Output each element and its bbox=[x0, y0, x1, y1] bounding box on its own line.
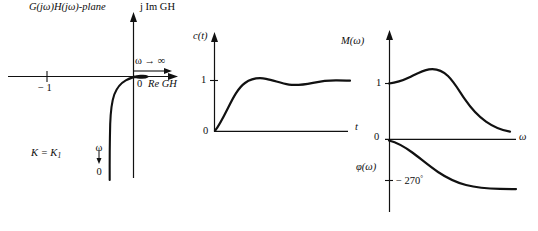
time-axis-label: t bbox=[355, 122, 358, 133]
step-origin-label: 0 bbox=[203, 126, 208, 137]
nyquist-critical-point-label: − 1 bbox=[38, 83, 52, 94]
omega-zero-label: 0 bbox=[92, 166, 106, 177]
omega-axis-label: ω bbox=[519, 132, 526, 143]
magnitude-unity-label: 1 bbox=[376, 78, 381, 89]
control-systems-figure: G(jω)H(jω)-plane j Im GH 0 Re GH ω → ∞ −… bbox=[0, 0, 538, 231]
phase-270-value: − 270 bbox=[396, 175, 420, 186]
step-response-axis-label: c(t) bbox=[193, 31, 208, 42]
phase-270-label: − 270° bbox=[396, 175, 423, 187]
gain-label-k: K bbox=[31, 147, 38, 158]
gain-label: K = K1 bbox=[31, 148, 61, 160]
phase-axes bbox=[385, 139, 393, 212]
nyquist-locus-curve bbox=[110, 76, 148, 180]
nyquist-imaginary-axis-label: j Im GH bbox=[140, 2, 175, 13]
omega-infinity-arrow bbox=[134, 68, 172, 74]
nyquist-origin-label: 0 bbox=[137, 79, 142, 90]
nyquist-plane-title: G(jω)H(jω)-plane bbox=[29, 2, 106, 13]
degree-icon: ° bbox=[420, 174, 423, 182]
magnitude-axis-label: M(ω) bbox=[341, 36, 364, 47]
omega-symbol-label: ω bbox=[92, 142, 106, 153]
magnitude-origin-label: 0 bbox=[374, 132, 379, 143]
omega-approaches-infinity-label: ω → ∞ bbox=[135, 56, 165, 67]
omega-to-zero-annotation: ω 0 bbox=[92, 142, 106, 177]
step-unity-label: 1 bbox=[201, 75, 206, 86]
gain-label-subscript: 1 bbox=[57, 151, 61, 160]
magnitude-response-curve bbox=[389, 69, 510, 131]
magnitude-axes bbox=[385, 30, 516, 140]
gain-label-equals: = bbox=[41, 147, 48, 158]
phase-axis-label: φ(ω) bbox=[356, 162, 376, 173]
figure-vector-canvas bbox=[0, 0, 538, 231]
nyquist-real-axis-label: Re GH bbox=[148, 79, 177, 90]
step-response-curve bbox=[215, 78, 350, 131]
